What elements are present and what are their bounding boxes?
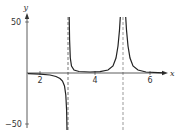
y-tick-label-neg50: −50: [5, 120, 22, 129]
x-tick-label-4: 4: [93, 76, 98, 85]
x-tick-label-6: 6: [148, 76, 153, 85]
rational-function-graph: x y 2 4 6 50 −50: [0, 0, 180, 131]
y-axis-arrow-icon: [25, 13, 29, 19]
x-tick-label-2: 2: [38, 76, 43, 85]
y-tick-label-50: 50: [11, 18, 21, 27]
curve-middle-branch: [69, 17, 120, 72]
curve-left-branch: [28, 74, 67, 130]
y-axis-label: y: [23, 3, 29, 12]
curve-right-branch: [126, 17, 164, 73]
x-axis-label: x: [170, 69, 175, 78]
